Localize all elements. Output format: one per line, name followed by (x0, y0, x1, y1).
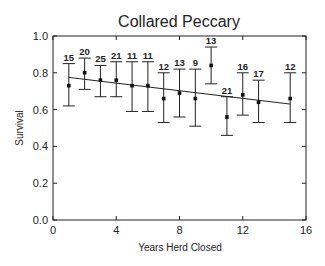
y-tick-label: 1.0 (33, 30, 48, 42)
y-tick-label: 0.8 (33, 67, 48, 79)
x-tick-label: 4 (113, 224, 119, 236)
data-point (114, 78, 118, 82)
y-tick-label: 0.2 (33, 177, 48, 189)
data-point (194, 97, 198, 101)
data-point (209, 64, 213, 68)
x-tick-label: 12 (237, 224, 249, 236)
sample-size-label: 9 (193, 57, 198, 68)
chart-title: Collared Peccary (118, 13, 240, 30)
sample-size-label: 21 (111, 50, 122, 61)
data-point (288, 97, 292, 101)
y-tick-label: 0.4 (33, 140, 48, 152)
data-point (241, 93, 245, 97)
sample-size-label: 17 (253, 68, 264, 79)
x-axis-label: Years Herd Closed (138, 242, 222, 253)
sample-size-label: 13 (174, 57, 185, 68)
survival-chart: Collared Peccary 04812160.00.20.40.60.81… (0, 0, 325, 266)
x-tick-label: 0 (50, 224, 56, 236)
sample-size-label: 21 (222, 85, 233, 96)
sample-size-label: 12 (285, 61, 296, 72)
data-point (257, 100, 261, 104)
sample-size-label: 25 (95, 53, 106, 64)
sample-size-label: 20 (79, 46, 90, 57)
y-tick-label: 0.0 (33, 214, 48, 226)
sample-size-label: 12 (158, 61, 169, 72)
data-point (83, 71, 87, 75)
data-point (99, 78, 103, 82)
sample-size-label: 13 (206, 35, 217, 46)
sample-size-label: 16 (237, 61, 248, 72)
data-point (162, 97, 166, 101)
x-tick-label: 16 (300, 224, 312, 236)
x-tick-label: 8 (176, 224, 182, 236)
sample-size-label: 11 (127, 50, 138, 61)
data-point (178, 91, 182, 95)
sample-size-label: 15 (64, 52, 75, 63)
sample-size-label: 11 (143, 50, 154, 61)
data-point (67, 84, 71, 88)
y-tick-label: 0.6 (33, 104, 48, 116)
data-point (225, 115, 229, 119)
data-point (146, 84, 150, 88)
y-axis-label: Survival (14, 110, 25, 146)
plot-area: 04812160.00.20.40.60.81.0152025211111121… (33, 30, 312, 236)
data-point (130, 84, 134, 88)
